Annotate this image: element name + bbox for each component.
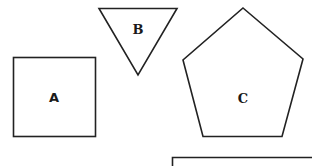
- square-label: A: [49, 90, 59, 105]
- pentagon-label: C: [238, 91, 248, 106]
- square-shape-a: A: [14, 58, 96, 137]
- answer-box-outline: [173, 158, 313, 167]
- triangle-shape-b: B: [99, 9, 177, 76]
- pentagon-shape-c: C: [183, 8, 303, 137]
- answer-box: [173, 158, 313, 167]
- pentagon-outline: [183, 8, 303, 137]
- triangle-label: B: [133, 22, 144, 37]
- shapes-diagram: A B C: [0, 0, 312, 166]
- triangle-outline: [99, 9, 177, 76]
